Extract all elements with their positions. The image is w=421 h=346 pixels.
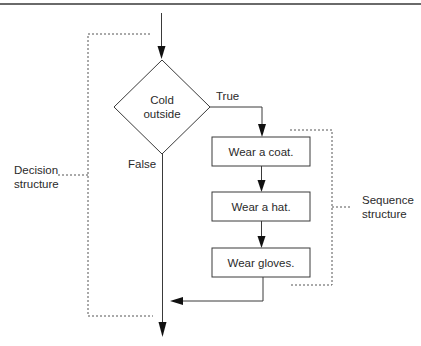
step-wear-hat: Wear a hat. (212, 192, 310, 221)
step-label: Wear a hat. (231, 201, 290, 213)
decision-structure-bracket (58, 34, 153, 316)
step-wear-gloves: Wear gloves. (212, 248, 310, 277)
sequence-structure-label-line1: Sequence (362, 194, 414, 206)
decision-condition-line1: Cold (150, 94, 174, 106)
step-label: Wear a coat. (229, 146, 294, 158)
flowchart-diagram: Cold outside True False Wear a coat. Wea… (0, 0, 421, 346)
decision-structure-label-line1: Decision (14, 164, 58, 176)
decision-node: Cold outside (114, 60, 210, 154)
entry-arrow (158, 13, 166, 59)
true-label: True (216, 90, 239, 102)
step-label: Wear gloves. (228, 257, 295, 269)
decision-condition-line2: outside (143, 108, 180, 120)
arrow-hat-to-gloves (258, 221, 266, 248)
merge-connector (170, 277, 263, 305)
arrow-coat-to-hat (258, 166, 266, 192)
step-wear-coat: Wear a coat. (212, 137, 310, 166)
decision-structure-label-line2: structure (14, 178, 59, 190)
true-branch-connector (210, 107, 266, 137)
sequence-structure-label-line2: structure (362, 208, 407, 220)
false-branch-line (159, 154, 167, 337)
false-label: False (128, 158, 156, 170)
decision-diamond (114, 60, 210, 154)
